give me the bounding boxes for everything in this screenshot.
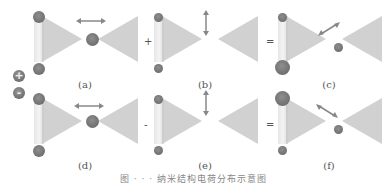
charge-dot-bottom-large — [275, 60, 290, 75]
left-triangle — [162, 98, 202, 144]
charge-dot-bottom — [154, 64, 163, 73]
right-triangle — [342, 98, 382, 144]
right-triangle — [342, 16, 382, 62]
horizontal-arrow-icon — [74, 102, 104, 110]
diagonal-arrow-icon — [318, 22, 340, 36]
negative-charge-legend-icon: - — [13, 87, 25, 99]
charge-dot-top — [33, 11, 45, 23]
figure-caption: 图 · · · 纳米结构电荷分布示意图 — [0, 172, 387, 183]
right-triangle — [98, 98, 138, 144]
right-triangle — [218, 98, 258, 144]
charge-dot-top — [33, 93, 45, 105]
charge-dot-bottom — [154, 146, 163, 155]
panel-f: (f) — [274, 88, 384, 166]
panel-label: (d) — [70, 160, 100, 171]
charge-dot-bottom — [278, 146, 287, 155]
charge-dot-top — [154, 13, 163, 22]
charge-dot-center — [334, 125, 343, 134]
right-triangle — [218, 16, 258, 62]
diagonal-arrow-icon — [316, 104, 338, 118]
panel-e: (e) — [150, 88, 260, 166]
charge-dot-bottom — [33, 145, 45, 157]
charge-dot-top — [154, 95, 163, 104]
charge-dot-center — [334, 43, 343, 52]
vertical-arrow-icon — [202, 10, 210, 36]
panel-label: (f) — [314, 160, 344, 171]
panel-c: (c) — [274, 6, 384, 84]
charge-dot-bottom — [33, 63, 45, 75]
vertical-arrow-icon — [202, 90, 210, 116]
minus-operator: - — [144, 119, 148, 130]
panel-d: (d) — [30, 88, 140, 166]
horizontal-arrow-icon — [76, 17, 106, 25]
panel-a: (a) — [30, 6, 140, 84]
panel-b: (b) — [150, 6, 260, 84]
panel-label: (e) — [190, 160, 220, 171]
charge-dot-top-large — [275, 91, 290, 106]
left-triangle — [162, 16, 202, 62]
positive-charge-legend-icon: + — [13, 70, 25, 82]
charge-dot-center — [86, 33, 99, 46]
charge-dot-top — [278, 13, 287, 22]
charge-dot-center — [86, 115, 99, 128]
